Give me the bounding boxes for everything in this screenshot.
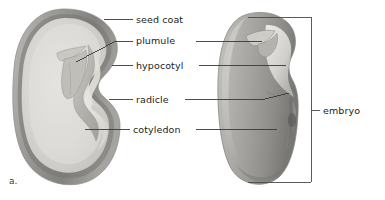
right-seed-whole bbox=[218, 12, 298, 184]
label-cotyledon: cotyledon bbox=[133, 124, 181, 135]
label-hypocotyl: hypocotyl bbox=[136, 60, 183, 71]
label-plumule: plumule bbox=[136, 35, 175, 46]
label-radicle: radicle bbox=[136, 94, 169, 105]
label-embryo: embryo bbox=[323, 105, 360, 116]
seed-anatomy-figure: seed coat plumule hypocotyl radicle coty… bbox=[0, 0, 385, 200]
figure-illustration bbox=[0, 0, 385, 200]
panel-letter: a. bbox=[9, 176, 17, 186]
label-seed-coat: seed coat bbox=[136, 14, 183, 25]
left-seed-section bbox=[13, 9, 120, 185]
micropyle-dot bbox=[288, 113, 296, 127]
